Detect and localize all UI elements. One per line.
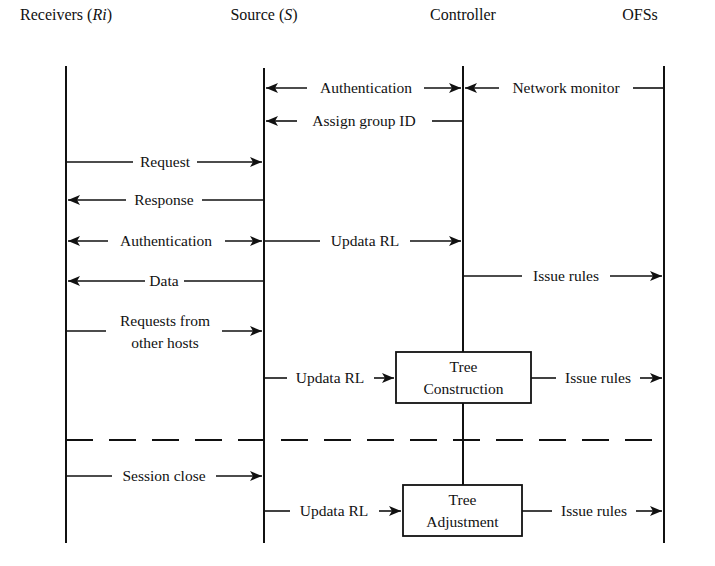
msg-issue-rules-2: Issue rules bbox=[565, 369, 631, 386]
msg-updata-rl-1: Updata RL bbox=[331, 232, 399, 249]
sequence-diagram: Receivers (Ri) Source (S) Controller OFS… bbox=[0, 0, 715, 566]
msg-issue-rules-1: Issue rules bbox=[533, 267, 599, 284]
msg-updata-rl-2: Updata RL bbox=[296, 369, 364, 386]
msg-requests-from-line-1: Requests from bbox=[120, 312, 210, 329]
tree-construction-label-1: Tree bbox=[450, 358, 478, 375]
tree-adjustment-label-2: Adjustment bbox=[426, 513, 499, 530]
msg-network-monitor: Network monitor bbox=[512, 79, 620, 96]
header-receivers: Receivers (Ri) bbox=[20, 6, 112, 24]
msg-session-close: Session close bbox=[122, 467, 205, 484]
msg-updata-rl-3: Updata RL bbox=[300, 502, 368, 519]
msg-authentication-source-controller: Authentication bbox=[320, 79, 412, 96]
msg-request: Request bbox=[140, 153, 191, 170]
tree-adjustment-label-1: Tree bbox=[449, 491, 477, 508]
tree-construction-label-2: Construction bbox=[423, 380, 503, 397]
message-arrows bbox=[66, 88, 664, 511]
header-ofss: OFSs bbox=[622, 6, 658, 23]
header-controller: Controller bbox=[430, 6, 496, 23]
msg-response: Response bbox=[134, 191, 194, 208]
message-labels: Authentication Network monitor Assign gr… bbox=[120, 79, 631, 519]
msg-issue-rules-3: Issue rules bbox=[561, 502, 627, 519]
participant-headers: Receivers (Ri) Source (S) Controller OFS… bbox=[20, 6, 658, 24]
msg-data: Data bbox=[149, 272, 178, 289]
msg-requests-from-line-2: other hosts bbox=[131, 334, 199, 351]
header-source: Source (S) bbox=[230, 6, 297, 24]
msg-authentication-receiver-source: Authentication bbox=[120, 232, 212, 249]
msg-assign-group-id: Assign group ID bbox=[312, 112, 415, 129]
